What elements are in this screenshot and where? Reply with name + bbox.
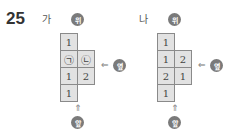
front-view-badge: 앞 xyxy=(168,116,181,129)
figure-label: 가 xyxy=(42,11,51,26)
grid-cell: ㉠ xyxy=(60,50,78,68)
side-view-badge: 옆 xyxy=(113,59,126,72)
grid-cell: ㉡ xyxy=(77,50,95,68)
question-number: 25 xyxy=(6,9,25,29)
top-view-badge: 위 xyxy=(168,13,181,26)
arrow-left-icon: ⇐ xyxy=(198,60,206,70)
grid-cell: 2 xyxy=(157,67,175,85)
grid-cell: 1 xyxy=(60,84,78,102)
grid-cell: 1 xyxy=(157,84,175,102)
top-view-badge: 위 xyxy=(71,13,84,26)
grid-cell: 1 xyxy=(174,67,192,85)
arrow-up-icon: ⇑ xyxy=(74,103,82,113)
grid-cell: 2 xyxy=(174,50,192,68)
grid-cell: 1 xyxy=(157,50,175,68)
front-view-badge: 앞 xyxy=(71,116,84,129)
grid-cell: 1 xyxy=(60,67,78,85)
arrow-left-icon: ⇐ xyxy=(101,60,109,70)
side-view-badge: 옆 xyxy=(210,59,223,72)
grid-cell: 1 xyxy=(157,33,175,51)
arrow-up-icon: ⇑ xyxy=(171,103,179,113)
grid-cell: 2 xyxy=(77,67,95,85)
grid-cell: 1 xyxy=(60,33,78,51)
figure-label: 나 xyxy=(139,11,148,26)
